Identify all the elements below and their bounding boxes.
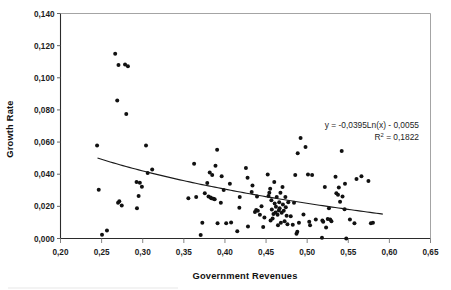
data-point [210, 173, 214, 177]
data-point [250, 183, 254, 187]
data-point [266, 173, 270, 177]
x-tick-label: 0,60 [381, 248, 397, 257]
data-point [250, 190, 254, 194]
x-tick-label: 0,25 [94, 248, 110, 257]
data-point [268, 187, 272, 191]
data-point [117, 199, 121, 203]
data-point [336, 193, 340, 197]
data-point [200, 221, 204, 225]
y-axis-ticks: 0,0000,0200,0400,0600,0800,1000,1200,140 [34, 10, 61, 244]
data-point [205, 181, 209, 185]
data-point [235, 229, 239, 233]
data-point [343, 182, 347, 186]
data-point [308, 223, 312, 227]
data-point [219, 201, 223, 205]
data-point [100, 233, 104, 237]
data-point [295, 230, 299, 234]
data-point [262, 216, 266, 220]
data-point [272, 180, 276, 184]
data-point [329, 219, 333, 223]
data-point [124, 112, 128, 116]
data-point [138, 181, 142, 185]
data-point [261, 225, 265, 229]
data-point [113, 52, 117, 56]
data-point [144, 144, 148, 148]
data-point [301, 212, 305, 216]
data-point [337, 185, 341, 189]
data-point [260, 204, 264, 208]
scan-artifact [8, 287, 178, 289]
data-point [285, 214, 289, 218]
data-point [289, 214, 293, 218]
data-point [310, 173, 314, 177]
data-point [348, 218, 352, 222]
x-tick-label: 0,55 [340, 248, 356, 257]
data-point [279, 221, 283, 225]
data-point [237, 206, 241, 210]
data-point [256, 209, 260, 213]
y-tick-label: 0,060 [34, 138, 55, 147]
data-point [213, 164, 217, 168]
data-point [321, 220, 325, 224]
y-tick-label: 0,140 [34, 10, 55, 19]
r-squared-label: R2 = 0,1822 [375, 132, 420, 142]
data-point [366, 179, 370, 183]
x-tick-label: 0,20 [53, 248, 69, 257]
data-point [283, 195, 287, 199]
data-point [224, 221, 228, 225]
data-point [95, 144, 99, 148]
data-point [314, 218, 318, 222]
data-point [359, 174, 363, 178]
data-point [267, 191, 271, 195]
data-point [281, 185, 285, 189]
data-point [97, 188, 101, 192]
data-point [115, 99, 119, 103]
r-squared-value: = 0,1822 [384, 132, 420, 142]
data-point [213, 197, 217, 201]
data-point [238, 195, 242, 199]
data-point [323, 185, 327, 189]
x-tick-label: 0,35 [176, 248, 192, 257]
data-point [304, 145, 308, 149]
data-point [341, 194, 345, 198]
x-tick-label: 0,50 [299, 248, 315, 257]
data-point [276, 213, 280, 217]
data-points [95, 52, 375, 241]
data-point [334, 175, 338, 179]
data-point [283, 219, 287, 223]
data-point [293, 173, 297, 177]
data-point [371, 221, 375, 225]
data-point [338, 200, 342, 204]
data-point [150, 167, 154, 171]
data-point [203, 191, 207, 195]
data-point [220, 174, 224, 178]
data-point [355, 177, 359, 181]
data-point [137, 194, 141, 198]
data-point [297, 221, 301, 225]
data-point [291, 223, 295, 227]
data-point [199, 233, 203, 237]
data-point [135, 206, 139, 210]
data-point [277, 200, 281, 204]
x-tick-label: 0,65 [423, 248, 439, 257]
y-tick-label: 0,100 [34, 74, 55, 83]
data-point [246, 224, 250, 228]
data-point [126, 64, 130, 68]
x-tick-label: 0,40 [217, 248, 233, 257]
x-axis-ticks: 0,200,250,300,350,400,450,500,550,600,65 [53, 239, 439, 257]
data-point [120, 204, 124, 208]
x-axis-title: Government Revenues [192, 271, 297, 281]
data-point [269, 198, 273, 202]
data-point [344, 237, 348, 241]
data-point [246, 176, 250, 180]
data-point [285, 222, 289, 226]
data-point [105, 228, 109, 232]
data-point [194, 195, 198, 199]
data-point [270, 208, 274, 212]
y-axis-title: Growth Rate [5, 100, 15, 157]
y-tick-label: 0,120 [34, 42, 55, 51]
data-point [186, 196, 190, 200]
data-point [324, 226, 328, 230]
data-point [320, 236, 324, 240]
y-tick-label: 0,080 [34, 106, 55, 115]
